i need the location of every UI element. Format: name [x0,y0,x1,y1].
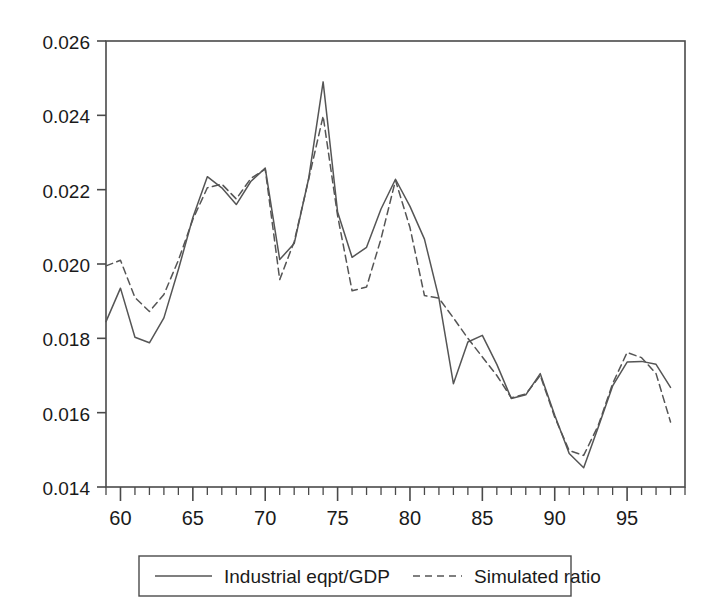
y-tick-label: 0.022 [42,181,90,202]
y-tick-label: 0.016 [42,404,90,425]
legend-label-simulated-ratio: Simulated ratio [474,566,601,587]
x-tick-label: 70 [254,507,276,529]
x-tick-label: 95 [616,507,638,529]
x-tick-label: 85 [471,507,493,529]
chart-figure: 0.0140.0160.0180.0200.0220.0240.026 6065… [0,0,710,615]
x-tick-label: 75 [326,507,348,529]
x-tick-label: 90 [544,507,566,529]
y-tick-label: 0.024 [42,106,90,127]
chart-legend: Industrial eqpt/GDP Simulated ratio [139,556,601,596]
y-tick-label: 0.018 [42,329,90,350]
line-chart: 0.0140.0160.0180.0200.0220.0240.026 6065… [0,0,710,615]
x-tick-label: 60 [109,507,131,529]
x-tick-label: 80 [399,507,421,529]
legend-label-industrial-eqpt-gdp: Industrial eqpt/GDP [224,566,390,587]
x-tick-label: 65 [182,507,204,529]
y-tick-label: 0.026 [42,32,90,53]
y-tick-label: 0.020 [42,255,90,276]
y-tick-label: 0.014 [42,478,90,499]
